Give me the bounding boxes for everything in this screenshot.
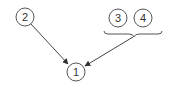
edge-group-to-1: [85, 37, 133, 66]
node-label: 4: [140, 12, 146, 24]
node-2: 2: [16, 8, 34, 26]
node-label: 2: [22, 11, 28, 23]
node-label: 1: [73, 66, 79, 78]
node-3: 3: [109, 9, 127, 27]
group-brace-3-4: [104, 31, 162, 37]
node-1: 1: [67, 63, 85, 81]
dependency-diagram: 2 3 4 1: [0, 0, 174, 92]
node-label: 3: [115, 12, 121, 24]
node-4: 4: [134, 9, 152, 27]
edge-2-to-1: [31, 24, 68, 64]
